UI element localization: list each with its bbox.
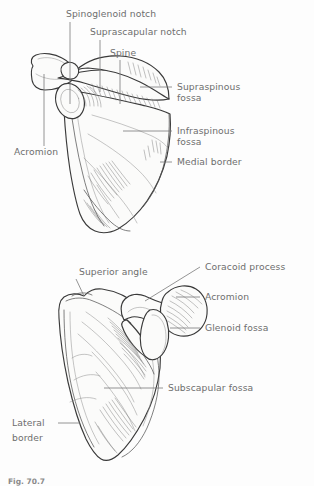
label-coracoid-process: Coracoid process bbox=[205, 261, 285, 272]
label-infraspinous-fossa-line2: fossa bbox=[177, 136, 202, 147]
label-supraspinous-fossa-line2: fossa bbox=[177, 92, 202, 103]
label-acromion-2: Acromion bbox=[205, 291, 249, 302]
label-subscapular-fossa: Subscapular fossa bbox=[168, 382, 253, 393]
label-spine: Spine bbox=[110, 47, 136, 58]
label-lateral-border-line2: border bbox=[12, 432, 43, 443]
label-infraspinous-fossa: Infraspinous bbox=[177, 125, 235, 136]
anatomy-figure: Spinoglenoid notch Suprascapular notch S… bbox=[0, 0, 314, 486]
figure-caption: Fig. 70.7 bbox=[8, 477, 45, 486]
label-suprascapular-notch: Suprascapular notch bbox=[90, 26, 187, 37]
label-lateral-border: Lateral bbox=[12, 417, 45, 428]
label-supraspinous-fossa: Supraspinous bbox=[177, 81, 240, 92]
label-superior-angle: Superior angle bbox=[79, 266, 148, 277]
label-medial-border: Medial border bbox=[177, 156, 242, 167]
label-spinoglenoid-notch: Spinoglenoid notch bbox=[66, 8, 156, 19]
glenoid-fossa-shape bbox=[140, 310, 168, 360]
label-glenoid-fossa: Glenoid fossa bbox=[205, 322, 268, 333]
scapula-illustration: Spinoglenoid notch Suprascapular notch S… bbox=[0, 0, 314, 486]
label-acromion: Acromion bbox=[14, 146, 58, 157]
